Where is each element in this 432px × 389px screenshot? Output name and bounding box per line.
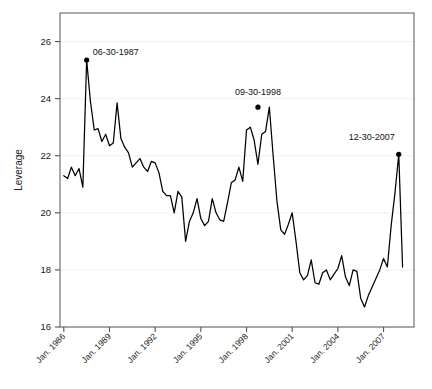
annotation-label: 12-30-2007 <box>349 132 395 142</box>
leverage-line-chart: 161820222426 Jan. 1986Jan. 1989Jan. 1992… <box>0 0 432 389</box>
x-tick-label: Jan. 1986 <box>34 331 68 365</box>
x-tick-label: Jan. 1998 <box>216 331 250 365</box>
x-tick-label: Jan. 2007 <box>353 331 387 365</box>
y-axis-label: Leverage <box>13 149 24 191</box>
x-tick-label: Jan. 1995 <box>171 331 205 365</box>
y-tick-label: 26 <box>40 36 51 47</box>
y-tick-label: 24 <box>40 93 51 104</box>
y-tick-label: 20 <box>40 207 51 218</box>
y-axis-ticks: 161820222426 <box>40 36 60 332</box>
plot-background <box>60 13 414 327</box>
annotation-marker <box>255 105 260 110</box>
y-tick-label: 16 <box>40 321 51 332</box>
x-tick-label: Jan. 1992 <box>125 331 159 365</box>
annotation-label: 06-30-1987 <box>93 47 139 57</box>
x-tick-label: Jan. 2004 <box>308 331 342 365</box>
annotation-marker <box>84 58 89 63</box>
annotation-label: 09-30-1998 <box>235 87 281 97</box>
x-tick-label: Jan. 1989 <box>79 331 113 365</box>
x-tick-label: Jan. 2001 <box>262 331 296 365</box>
chart-figure: 161820222426 Jan. 1986Jan. 1989Jan. 1992… <box>0 0 432 389</box>
annotation-marker <box>396 152 401 157</box>
y-tick-label: 18 <box>40 264 51 275</box>
y-tick-label: 22 <box>40 150 51 161</box>
x-axis-ticks: Jan. 1986Jan. 1989Jan. 1992Jan. 1995Jan.… <box>34 327 387 365</box>
